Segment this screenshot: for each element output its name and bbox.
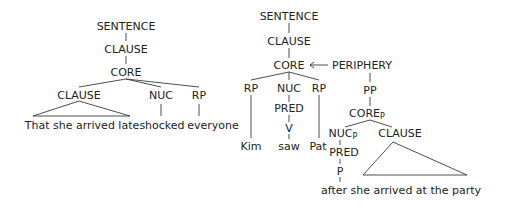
left-clause-node: CLAUSE [104, 43, 148, 56]
left-tree: SENTENCE CLAUSE CORE CLAUSE NUC RP That … [24, 20, 239, 132]
right-sentence-node: SENTENCE [260, 10, 319, 23]
left-nuc-node: NUC [149, 89, 173, 102]
clause-p-node: CLAUSE [378, 127, 422, 140]
pat-word: Pat [309, 140, 327, 153]
left-core-node: CORE [111, 66, 142, 79]
p-node: P [337, 165, 344, 178]
left-subject-text: That she arrived late [24, 119, 140, 132]
left-rp-node: RP [192, 89, 207, 102]
pp-node: PP [363, 84, 377, 97]
right-core-node: CORE [274, 59, 305, 72]
right-rp1-node: RP [244, 82, 259, 95]
edge [289, 72, 319, 80]
left-verb-word: shocked [139, 119, 184, 132]
periphery-node: PERIPHERY [332, 59, 392, 72]
left-subject-clause-node: CLAUSE [57, 89, 101, 102]
right-nuc-node: NUC [277, 82, 301, 95]
right-rp2-node: RP [312, 82, 327, 95]
edge [126, 79, 161, 87]
right-pred-node: PRED [274, 102, 304, 115]
right-v-node: V [285, 122, 293, 135]
edge [79, 79, 126, 87]
edge [126, 79, 199, 87]
edge [251, 72, 289, 80]
pred-p-node: PRED [329, 146, 359, 159]
edge [370, 120, 392, 127]
right-clause-node: CLAUSE [267, 35, 311, 48]
saw-word: saw [278, 140, 299, 153]
right-tree: SENTENCE CLAUSE CORE PERIPHERY RP NUC RP… [241, 10, 482, 197]
core-p-node: COREP [349, 107, 385, 121]
left-sentence-node: SENTENCE [97, 20, 156, 33]
nuc-p-node: NUCP [329, 127, 358, 141]
triangle [33, 101, 130, 116]
adjunct-text: after she arrived at the party [321, 184, 482, 197]
rrg-tree-diagram: SENTENCE CLAUSE CORE CLAUSE NUC RP That … [0, 0, 505, 205]
edge [345, 120, 370, 127]
kim-word: Kim [241, 140, 262, 153]
triangle [363, 142, 467, 175]
left-object-word: everyone [187, 119, 239, 132]
